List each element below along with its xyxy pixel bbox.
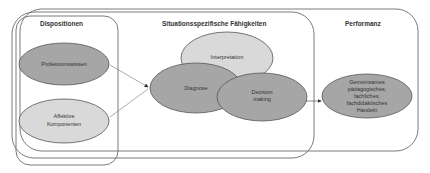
- competence-diagram: Dispositionen Situationsspezifische Fähi…: [0, 0, 430, 173]
- handeln-label-1: Gemeinsames: [349, 79, 385, 85]
- interpretation-label: Interpretation: [211, 54, 243, 60]
- handeln-label-5: Handeln: [357, 107, 378, 113]
- handeln-label-2: pädagogisches,: [348, 86, 387, 92]
- arrow-professionswissen-to-diagnose: [110, 65, 148, 87]
- handeln-label-4: fachdidaktisches: [347, 100, 388, 106]
- decision-label-1: Decision: [251, 89, 272, 95]
- handeln-label-3: fachliches,: [354, 93, 380, 99]
- affektive-label-1: Affektive: [54, 113, 75, 119]
- diagnose-label: Diagnose: [184, 85, 207, 91]
- decision-label-2: making: [253, 96, 271, 102]
- affektive-label-2: Komponenten: [47, 121, 81, 127]
- performanz-title: Performanz: [345, 20, 382, 27]
- dispositionen-title: Dispositionen: [40, 20, 83, 28]
- professionswissen-label: Professionswissen: [41, 61, 87, 67]
- arrow-affektive-to-diagnose: [110, 89, 148, 117]
- situationsspezifisch-title: Situationsspezifische Fähigkeiten: [162, 20, 266, 28]
